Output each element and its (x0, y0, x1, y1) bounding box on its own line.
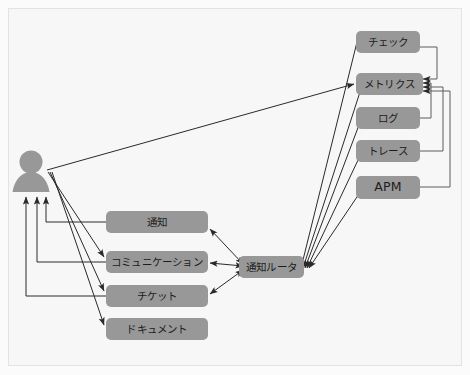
node-trace[interactable]: トレース (356, 140, 420, 162)
node-communication[interactable]: コミュニケーション (106, 251, 208, 273)
node-apm-label: APM (374, 181, 401, 194)
node-check-label: チェック (368, 37, 409, 48)
node-log-label: ログ (378, 113, 398, 124)
edge-log-to-router (305, 125, 359, 268)
edge-actor-to-metrics (47, 84, 354, 170)
node-ticket-label: チケット (137, 291, 178, 302)
node-metrics[interactable]: メトリクス (356, 73, 423, 95)
diagram-stage: チェック メトリクス ログ トレース APM 通知 コミュニケーション チケット… (0, 0, 470, 375)
node-router-label: 通知ルータ (246, 262, 297, 273)
edge-check-to-router (301, 42, 357, 268)
edge-notification-to-actor (46, 197, 106, 222)
edge-check-to-metrics (420, 47, 437, 79)
node-communication-label: コミュニケーション (111, 257, 203, 268)
node-trace-label: トレース (368, 146, 408, 157)
node-check[interactable]: チェック (356, 31, 420, 53)
user-actor (13, 151, 50, 193)
node-metrics-label: メトリクス (364, 79, 415, 90)
edge-apm-to-metrics (420, 91, 450, 187)
node-document-label: ドキュメント (126, 324, 187, 335)
node-apm[interactable]: APM (356, 176, 420, 199)
node-notification[interactable]: 通知 (106, 211, 208, 233)
edge-router-notification (210, 229, 243, 264)
node-notification-label: 通知 (147, 217, 167, 228)
node-document[interactable]: ドキュメント (106, 318, 208, 340)
node-router[interactable]: 通知ルータ (239, 256, 304, 278)
edge-metrics-to-router (303, 92, 360, 268)
node-ticket[interactable]: チケット (106, 285, 208, 307)
node-log[interactable]: ログ (356, 107, 420, 129)
edge-actor-to-document (52, 172, 104, 325)
